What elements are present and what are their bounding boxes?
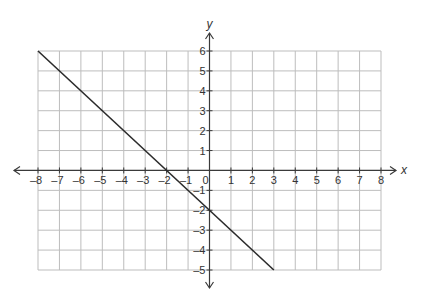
x-tick-label: 7: [357, 174, 363, 186]
y-tick-label: 6: [199, 45, 205, 57]
x-tick-label: 6: [335, 174, 341, 186]
x-tick-label: –8: [30, 174, 42, 186]
x-tick-label: –2: [159, 174, 171, 186]
x-tick-label: 5: [314, 174, 320, 186]
y-tick-label: 2: [199, 125, 205, 137]
y-tick-label: 4: [199, 85, 205, 97]
y-tick-label: –3: [193, 224, 205, 236]
x-tick-label: –5: [94, 174, 106, 186]
x-tick-labels: –8–7–6–5–4–3–2–1012345678: [30, 174, 384, 186]
x-tick-label: –4: [116, 174, 128, 186]
coordinate-plane: –8–7–6–5–4–3–2–1012345678 –5–4–3–2–11234…: [0, 0, 428, 296]
y-tick-label: 3: [199, 105, 205, 117]
x-tick-label: 2: [249, 174, 255, 186]
x-tick-label: 4: [292, 174, 298, 186]
x-tick-label: –6: [73, 174, 85, 186]
y-tick-label: –1: [193, 184, 205, 196]
x-tick-label: 1: [228, 174, 234, 186]
y-tick-label: –4: [193, 244, 205, 256]
y-tick-label: –5: [193, 264, 205, 276]
line-y-equals-neg-x-minus-2: [38, 51, 274, 270]
y-tick-label: –2: [193, 204, 205, 216]
x-tick-label: 8: [378, 174, 384, 186]
y-tick-label: 5: [199, 65, 205, 77]
x-axis-label: x: [400, 163, 408, 177]
x-tick-label: 3: [271, 174, 277, 186]
x-tick-label: –3: [137, 174, 149, 186]
y-tick-labels: –5–4–3–2–1123456: [193, 45, 205, 276]
x-tick-label: –7: [51, 174, 63, 186]
y-tick-label: 1: [199, 145, 205, 157]
data-series: [38, 51, 274, 270]
y-axis-label: y: [206, 17, 214, 31]
